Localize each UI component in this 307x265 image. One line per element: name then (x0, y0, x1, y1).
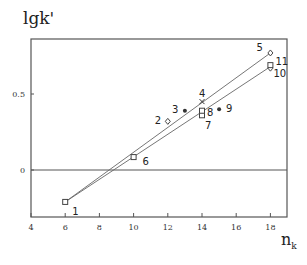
point-label: 2 (155, 115, 161, 126)
x-tick-label: 12 (163, 223, 173, 232)
data-point-square (63, 199, 68, 204)
x-tick-label: 14 (197, 223, 207, 232)
x-tick-label: 6 (63, 223, 68, 232)
point-label: 9 (226, 103, 232, 114)
y-tick-label: 0 (20, 166, 25, 175)
point-label: 1 (72, 206, 78, 217)
y-tick-label: 0.5 (12, 90, 25, 99)
data-point-square (131, 155, 136, 160)
point-label: 6 (143, 156, 149, 167)
plot-frame (31, 39, 287, 217)
point-label: 7 (205, 120, 211, 131)
point-label: 11 (275, 56, 288, 67)
scatter-plot: 468101214161800.51234567891011 (0, 0, 307, 265)
data-point-square (268, 63, 273, 68)
point-label: 3 (172, 104, 178, 115)
data-point-diamond (165, 118, 170, 124)
point-label: 5 (256, 42, 262, 53)
fit-line (65, 67, 270, 202)
x-tick-label: 18 (265, 223, 275, 232)
point-label: 8 (207, 107, 213, 118)
data-point-square (200, 108, 205, 113)
point-label: 10 (273, 68, 286, 79)
data-point-star (217, 107, 221, 111)
data-point-diamond (268, 50, 273, 56)
data-point-star (183, 109, 187, 113)
x-tick-label: 16 (231, 223, 241, 232)
x-tick-label: 4 (28, 223, 33, 232)
x-tick-label: 10 (129, 223, 139, 232)
fit-line (65, 53, 270, 202)
x-tick-label: 8 (97, 223, 102, 232)
point-label: 4 (199, 88, 205, 99)
